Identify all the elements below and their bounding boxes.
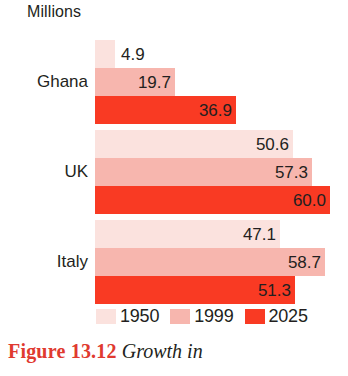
unit-label: Millions bbox=[27, 3, 81, 21]
bar-row: 60.0 bbox=[95, 186, 330, 214]
bar-row: 51.3 bbox=[95, 276, 295, 304]
bar-row: 58.7 bbox=[95, 248, 325, 276]
category-label-italy: Italy bbox=[0, 248, 88, 276]
bar-value-italy-1999: 58.7 bbox=[288, 248, 321, 276]
figure-13-12: Millions Ghana 4.9 19.7 36.9 UK 50.6 bbox=[0, 0, 348, 376]
legend-label-2025: 2025 bbox=[269, 306, 308, 327]
figure-caption: Figure 13.12 Growth in bbox=[8, 340, 348, 363]
bar-value-ghana-2025: 36.9 bbox=[199, 96, 232, 124]
legend-item-1950: 1950 bbox=[96, 306, 159, 327]
bar-value-italy-1950: 47.1 bbox=[243, 220, 276, 248]
figure-number: Figure 13.12 bbox=[8, 340, 117, 362]
figure-caption-text: Growth in bbox=[122, 340, 203, 362]
legend-item-1999: 1999 bbox=[170, 306, 233, 327]
legend-label-1999: 1999 bbox=[194, 306, 233, 327]
bar-value-italy-2025: 51.3 bbox=[258, 276, 291, 304]
chart-legend: 1950 1999 2025 bbox=[96, 305, 308, 327]
bar-row: 36.9 bbox=[95, 96, 236, 124]
bar-row: 4.9 bbox=[95, 40, 115, 68]
bar-row: 19.7 bbox=[95, 68, 175, 96]
legend-swatch-1999 bbox=[170, 309, 190, 324]
category-label-ghana: Ghana bbox=[0, 68, 88, 96]
bar-value-ghana-1950: 4.9 bbox=[115, 40, 145, 68]
legend-swatch-2025 bbox=[245, 309, 265, 324]
bar-group-italy: Italy 47.1 58.7 51.3 bbox=[0, 218, 348, 306]
bar-row: 50.6 bbox=[95, 130, 293, 158]
legend-label-1950: 1950 bbox=[120, 306, 159, 327]
bar-value-uk-2025: 60.0 bbox=[293, 186, 326, 214]
bar-chart-plot-area: Ghana 4.9 19.7 36.9 UK 50.6 bbox=[0, 38, 348, 304]
bar-group-uk: UK 50.6 57.3 60.0 bbox=[0, 128, 348, 216]
legend-item-2025: 2025 bbox=[245, 306, 308, 327]
legend-swatch-1950 bbox=[96, 309, 116, 324]
bar-value-ghana-1999: 19.7 bbox=[138, 68, 171, 96]
category-label-uk: UK bbox=[0, 158, 88, 186]
bar-value-uk-1999: 57.3 bbox=[275, 158, 308, 186]
bar-value-uk-1950: 50.6 bbox=[256, 130, 289, 158]
bar-ghana-1950 bbox=[95, 40, 115, 68]
bar-row: 47.1 bbox=[95, 220, 280, 248]
bar-row: 57.3 bbox=[95, 158, 312, 186]
bar-group-ghana: Ghana 4.9 19.7 36.9 bbox=[0, 38, 348, 126]
